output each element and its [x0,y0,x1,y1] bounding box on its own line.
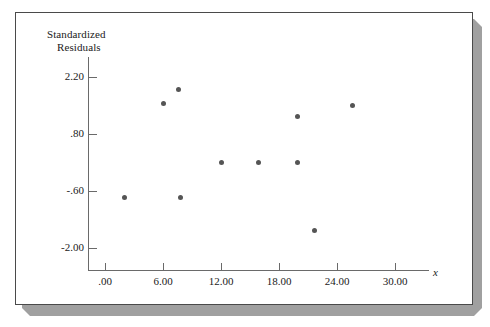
y-axis-tick-label-text: -2.00 [42,242,84,253]
x-axis-tick-label: 24.00 [307,276,367,287]
x-axis-tick [105,263,106,271]
data-point [176,87,181,92]
x-axis-tick-label: 18.00 [249,276,309,287]
data-point [122,195,127,200]
data-point [295,160,300,165]
y-axis-line [88,57,89,270]
data-point [219,160,224,165]
data-point [312,228,317,233]
y-axis-title-line2: Residuals [57,41,101,54]
data-point [295,114,300,119]
data-point [178,195,183,200]
data-point [256,160,261,165]
y-axis-tick [89,248,97,249]
x-axis-tick-label: 12.00 [191,276,251,287]
figure-root: Standardized Residuals 2.20.80-.60-2.00 … [0,0,490,327]
x-axis-variable-label: x [433,266,438,278]
x-axis-tick [395,263,396,271]
x-axis-line [88,270,429,271]
x-axis-tick [279,263,280,271]
y-axis-tick-label-text: .80 [42,128,84,139]
x-axis-tick [163,263,164,271]
x-axis-tick [337,263,338,271]
data-point [161,101,166,106]
scatter-plot: Standardized Residuals 2.20.80-.60-2.00 … [0,0,490,327]
data-point [350,103,355,108]
y-axis-tick [89,191,97,192]
y-axis-tick [89,134,97,135]
y-axis-tick-label-text: -.60 [42,185,84,196]
y-axis-tick [89,77,97,78]
y-axis-tick-label-text: 2.20 [42,71,84,82]
x-axis-tick-label: 30.00 [365,276,425,287]
x-axis-tick [221,263,222,271]
y-axis-title-line1: Standardized [47,28,106,41]
x-axis-tick-label: .00 [75,276,135,287]
x-axis-tick-label: 6.00 [133,276,193,287]
